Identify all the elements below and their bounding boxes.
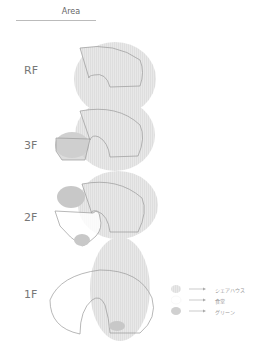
legend-item-green: グリーン — [171, 306, 235, 316]
floor-3f-plan — [55, 99, 155, 171]
floor-1f-plan — [50, 237, 154, 341]
legend-item-dining: 食堂 — [171, 295, 225, 305]
green-zone — [109, 321, 125, 331]
green-zone — [57, 186, 85, 208]
hatched-swatch-icon — [171, 284, 215, 294]
legend-label: シェアハウス — [215, 286, 245, 293]
floor-area-diagram — [0, 0, 266, 353]
legend-label: 食堂 — [215, 297, 225, 304]
grey-swatch-icon — [171, 306, 215, 316]
legend-item-share-house: シェアハウス — [171, 284, 245, 294]
floor-2f-plan — [55, 171, 158, 246]
green-outline — [56, 138, 90, 160]
white-swatch-icon — [171, 295, 215, 305]
legend-label: グリーン — [215, 308, 235, 315]
green-zone — [74, 234, 90, 246]
